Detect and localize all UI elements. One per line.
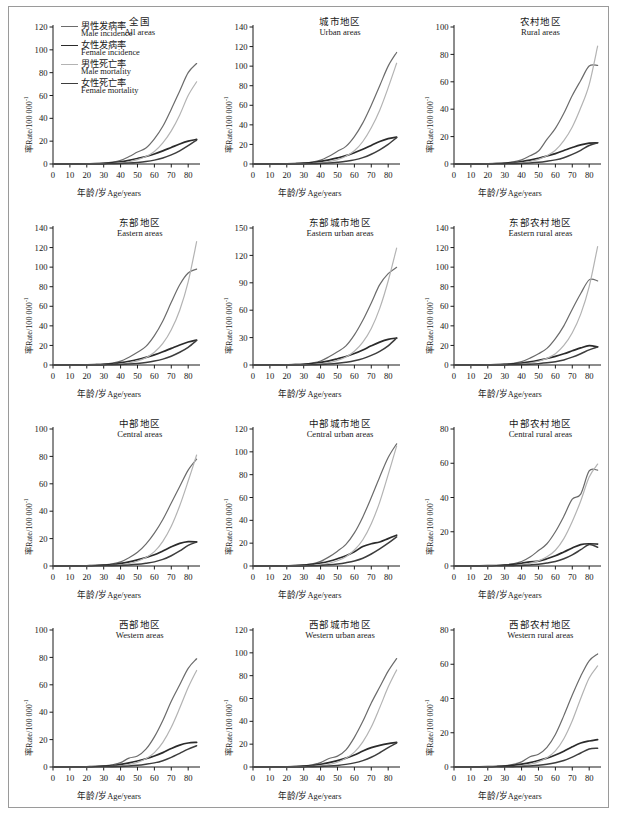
svg-text:50: 50 xyxy=(534,773,543,783)
x-axis-label: 年龄/岁Age/years xyxy=(410,789,610,801)
svg-text:30: 30 xyxy=(99,371,108,381)
svg-text:60: 60 xyxy=(350,371,359,381)
x-axis-ticks: 01020304050607080 xyxy=(51,566,193,582)
legend-swatch-female_mortality xyxy=(61,83,78,84)
plot-area: 01020304050607080020406080100120 xyxy=(209,610,409,811)
svg-text:20: 20 xyxy=(239,140,248,150)
svg-text:60: 60 xyxy=(39,91,48,101)
svg-text:10: 10 xyxy=(466,371,475,381)
svg-text:30: 30 xyxy=(99,572,108,582)
svg-text:120: 120 xyxy=(235,424,248,434)
svg-text:10: 10 xyxy=(66,371,75,381)
svg-text:70: 70 xyxy=(167,170,176,180)
plot-area: 01020304050607080020406080 xyxy=(410,409,610,610)
series-line-female_incidence xyxy=(253,338,397,365)
data-series-group xyxy=(454,464,598,566)
svg-text:40: 40 xyxy=(239,716,248,726)
svg-text:40: 40 xyxy=(517,572,526,582)
svg-text:40: 40 xyxy=(116,371,125,381)
svg-text:50: 50 xyxy=(133,371,142,381)
axes xyxy=(53,226,200,365)
svg-text:60: 60 xyxy=(239,493,248,503)
svg-text:20: 20 xyxy=(283,170,292,180)
series-line-male_mortality xyxy=(53,670,197,767)
svg-text:0: 0 xyxy=(51,371,55,381)
axes xyxy=(253,427,400,566)
svg-text:40: 40 xyxy=(517,773,526,783)
x-axis-ticks: 01020304050607080 xyxy=(452,164,594,180)
svg-text:0: 0 xyxy=(452,371,456,381)
svg-text:50: 50 xyxy=(334,170,343,180)
y-axis-label: 率Rate/100 000-1 xyxy=(222,498,234,555)
y-axis-label: 率Rate/100 000-1 xyxy=(22,498,34,555)
y-axis-ticks: 020406080 xyxy=(440,625,454,772)
svg-text:150: 150 xyxy=(235,223,248,233)
svg-text:20: 20 xyxy=(82,371,91,381)
svg-text:10: 10 xyxy=(266,773,275,783)
y-axis-label: 率Rate/100 000-1 xyxy=(222,297,234,354)
series-line-male_mortality xyxy=(454,247,598,365)
svg-text:70: 70 xyxy=(568,572,577,582)
svg-text:50: 50 xyxy=(534,572,543,582)
svg-text:20: 20 xyxy=(283,371,292,381)
svg-text:40: 40 xyxy=(440,104,449,114)
svg-text:60: 60 xyxy=(350,572,359,582)
svg-text:100: 100 xyxy=(35,45,48,55)
svg-text:20: 20 xyxy=(440,132,449,142)
svg-text:120: 120 xyxy=(435,243,448,253)
y-axis-label: 率Rate/100 000-1 xyxy=(423,96,435,153)
svg-text:80: 80 xyxy=(440,424,449,434)
svg-text:30: 30 xyxy=(500,572,509,582)
legend-item-male_incidence: 男性发病率Male incidence xyxy=(61,21,181,40)
y-axis-ticks: 020406080100120140 xyxy=(235,22,253,169)
svg-text:20: 20 xyxy=(483,371,492,381)
svg-text:100: 100 xyxy=(235,61,248,71)
panel-grid: 01020304050607080020406080100120全国All ar… xyxy=(9,7,610,809)
svg-text:0: 0 xyxy=(51,170,55,180)
svg-text:40: 40 xyxy=(239,120,248,130)
y-axis-label: 率Rate/100 000-1 xyxy=(423,498,435,555)
chart-panel-2: 01020304050607080020406080100120140城市地区U… xyxy=(209,7,409,208)
svg-text:80: 80 xyxy=(384,371,393,381)
svg-text:20: 20 xyxy=(440,728,449,738)
svg-text:10: 10 xyxy=(266,170,275,180)
svg-text:10: 10 xyxy=(266,371,275,381)
legend-label-en: Female incidence xyxy=(81,49,140,58)
legend: 男性发病率Male incidence女性发病率Female incidence… xyxy=(61,21,181,97)
series-line-female_incidence xyxy=(454,544,598,566)
svg-text:90: 90 xyxy=(239,278,248,288)
series-line-male_incidence xyxy=(454,65,598,164)
svg-text:40: 40 xyxy=(517,170,526,180)
series-line-male_incidence xyxy=(454,469,598,566)
svg-text:30: 30 xyxy=(500,371,509,381)
plot-area: 01020304050607080020406080100 xyxy=(9,409,209,610)
svg-text:120: 120 xyxy=(235,42,248,52)
svg-text:40: 40 xyxy=(239,515,248,525)
svg-text:40: 40 xyxy=(317,170,326,180)
series-line-female_incidence xyxy=(53,139,197,164)
svg-text:80: 80 xyxy=(184,572,193,582)
svg-text:60: 60 xyxy=(239,100,248,110)
y-axis-label: 率Rate/100 000-1 xyxy=(22,96,34,153)
svg-text:100: 100 xyxy=(35,262,48,272)
svg-text:80: 80 xyxy=(384,773,393,783)
svg-text:0: 0 xyxy=(51,773,55,783)
chart-panel-7: 01020304050607080020406080100中部地区Central… xyxy=(9,409,209,610)
series-line-male_mortality xyxy=(253,63,397,164)
legend-label-en: Male incidence xyxy=(81,30,132,39)
svg-text:80: 80 xyxy=(39,68,48,78)
series-line-male_incidence xyxy=(253,52,397,164)
svg-text:40: 40 xyxy=(116,773,125,783)
svg-text:60: 60 xyxy=(150,371,159,381)
chart-panel-12: 01020304050607080020406080西部农村地区Western … xyxy=(410,610,610,811)
chart-panel-6: 01020304050607080020406080100120140东部农村地… xyxy=(410,208,610,409)
svg-text:0: 0 xyxy=(244,762,248,772)
svg-text:10: 10 xyxy=(66,170,75,180)
svg-text:20: 20 xyxy=(283,773,292,783)
svg-text:40: 40 xyxy=(39,506,48,516)
svg-text:80: 80 xyxy=(184,371,193,381)
series-line-female_incidence xyxy=(253,137,397,164)
svg-text:60: 60 xyxy=(39,301,48,311)
legend-swatch-male_mortality xyxy=(61,64,78,65)
svg-text:60: 60 xyxy=(440,301,449,311)
